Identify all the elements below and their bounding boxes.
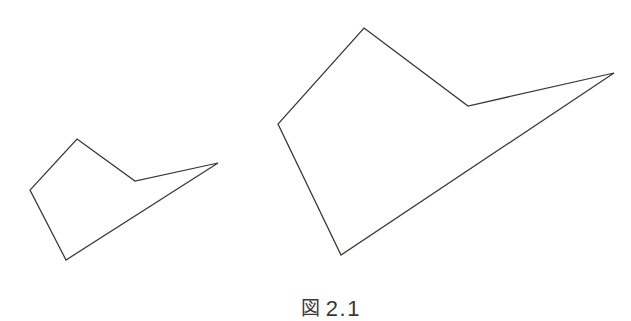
figure-caption-label: 図: [301, 297, 321, 319]
figure-caption: 図2.1: [0, 266, 631, 321]
figure-caption-number: 2.1: [326, 296, 361, 321]
